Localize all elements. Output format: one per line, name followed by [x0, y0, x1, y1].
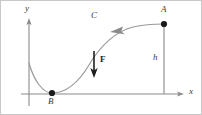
- force-label-f: F: [100, 55, 106, 64]
- x-axis: [21, 91, 184, 96]
- curve-label-c: C: [91, 11, 97, 20]
- force-vector: [90, 51, 97, 78]
- x-axis-label: x: [189, 87, 193, 96]
- height-label-h: h: [153, 53, 158, 62]
- point-marker-a: [161, 21, 167, 27]
- physics-diagram-figure: y x A B C h F: [0, 0, 202, 115]
- point-label-a: A: [161, 5, 167, 14]
- point-label-b: B: [48, 97, 54, 106]
- trajectory-curve: [29, 24, 164, 93]
- curve-path: [29, 24, 164, 93]
- y-axis: [26, 18, 31, 106]
- y-axis-label: y: [25, 4, 29, 13]
